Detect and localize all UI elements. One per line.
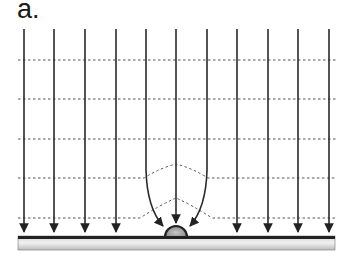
field-line-7-curved: [190, 29, 207, 226]
field-diagram: [0, 0, 352, 257]
field-line-5-curved: [146, 29, 163, 226]
field-lines: [24, 29, 329, 232]
equipotential-line-4: [18, 164, 336, 178]
hemispherical-bump: [165, 226, 187, 237]
equipotential-line-5: [18, 198, 336, 218]
equipotential-lines: [18, 60, 336, 218]
